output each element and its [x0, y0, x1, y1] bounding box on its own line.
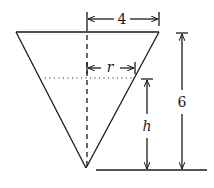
cone-left-side [16, 32, 86, 168]
water-height-dimension: h [141, 79, 153, 169]
top-radius-label: 4 [118, 11, 127, 27]
water-height-label: h [142, 118, 151, 134]
cone-diagram: 4 r h 6 [0, 0, 214, 188]
total-height-dimension: 6 [176, 33, 188, 169]
water-radius-dimension: r [87, 59, 135, 75]
cone-right-side [86, 32, 159, 168]
top-radius-dimension: 4 [87, 11, 159, 27]
water-radius-label: r [107, 59, 115, 75]
total-height-label: 6 [178, 94, 187, 110]
